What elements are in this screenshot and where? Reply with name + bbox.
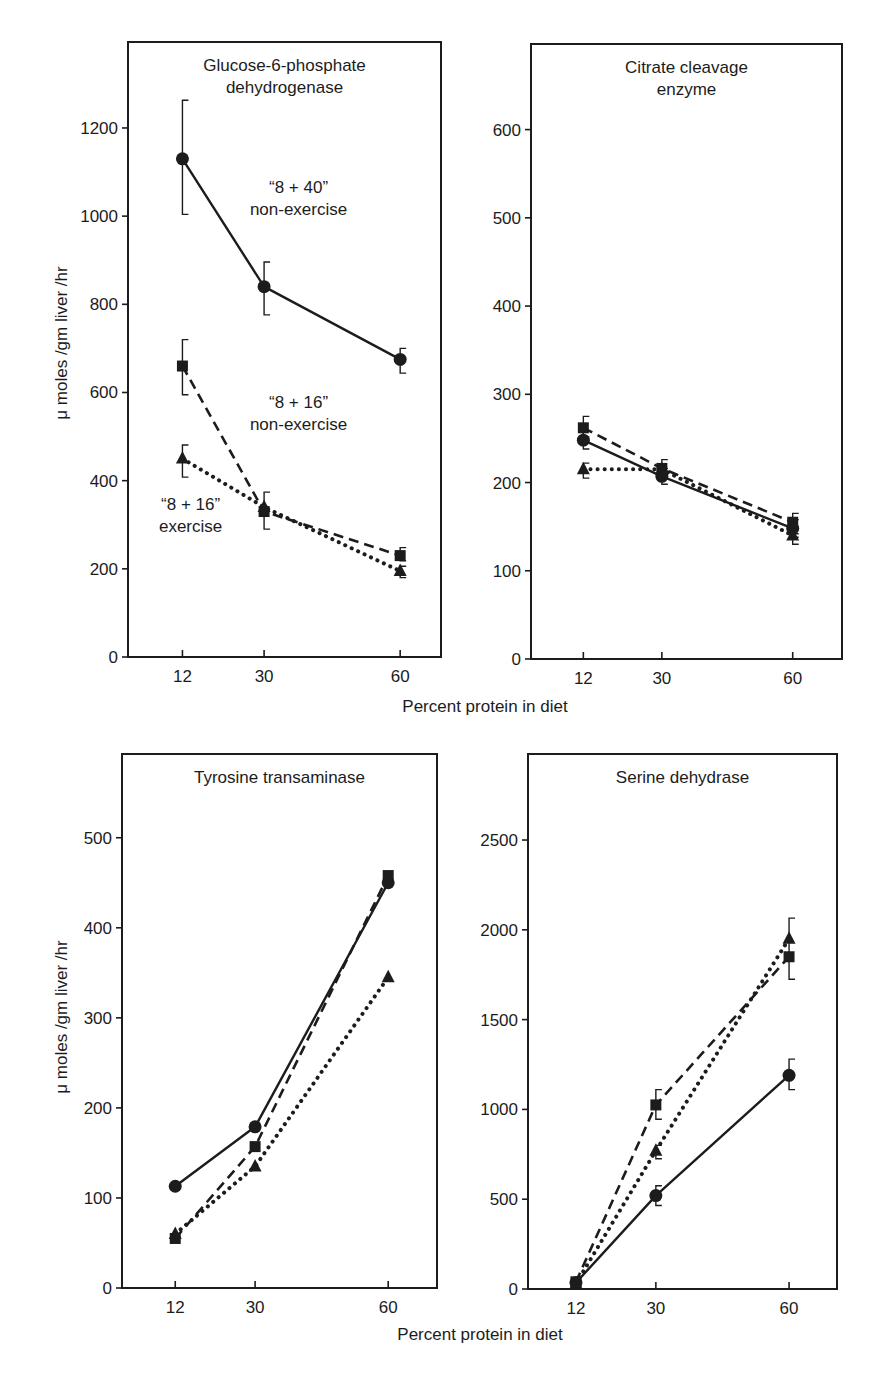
series-square-dashed [578,416,799,533]
data-point-square [250,1141,261,1152]
data-point-triangle [382,970,395,983]
y-tick-label: 100 [84,1189,112,1208]
chart-panel-serine-dehydrase: 05001000150020002500123060 Serine dehydr… [528,754,837,1289]
series-circle-solid [569,1059,795,1289]
data-point-square [650,1099,661,1110]
y-tick-label: 0 [509,1280,518,1299]
series-triangle-dotted [577,462,799,545]
data-point-triangle [258,500,271,513]
y-tick-label: 200 [84,1099,112,1118]
data-point-circle [649,1189,662,1202]
y-tick-label: 1000 [80,207,118,226]
y-tick-label: 600 [90,383,118,402]
x-tick-label: 30 [652,669,671,688]
data-point-triangle [176,451,189,464]
x-tick-label: 12 [173,667,192,686]
data-point-square [383,870,394,881]
y-tick-label: 0 [109,648,118,667]
x-tick-label: 30 [646,1299,665,1318]
series-annotation: “8 + 40” [269,178,328,197]
y-tick-label: 500 [84,829,112,848]
y-tick-label: 500 [493,209,521,228]
x-tick-label: 60 [783,669,802,688]
data-point-circle [394,353,407,366]
chart-title: Glucose-6-phosphate dehydrogenase [128,55,441,99]
x-tick-label: 30 [246,1298,265,1317]
chart-title-line-2: enzyme [657,80,717,99]
chart-title-line-1: Tyrosine transaminase [194,768,365,787]
y-tick-label: 300 [493,385,521,404]
chart-panel-glucose-6-phosphate-dehydrogenase: 020040060080010001200123060“8 + 40”non-e… [128,42,441,657]
y-tick-label: 500 [490,1190,518,1209]
data-point-triangle [783,931,796,944]
x-axis-label-top: Percent protein in diet [335,696,635,718]
y-axis-label-top: μ moles /gm liver /hr [52,203,72,483]
x-tick-label: 60 [379,1298,398,1317]
y-tick-label: 0 [512,650,521,669]
x-tick-label: 30 [255,667,274,686]
plot-area: 0100200300400500123060 [122,754,437,1288]
y-tick-label: 2000 [480,921,518,940]
series-line [583,440,792,528]
data-point-square [784,951,795,962]
chart-panel-tyrosine-transaminase: 0100200300400500123060 Tyrosine transami… [122,754,437,1288]
series-line [182,459,400,571]
series-circle-solid [169,876,395,1192]
data-point-square [787,517,798,528]
data-point-square [578,422,589,433]
y-tick-label: 1500 [480,1011,518,1030]
y-axis-label-bottom: μ moles /gm liver /hr [52,877,72,1157]
data-point-circle [249,1120,262,1133]
series-line [576,957,789,1282]
series-annotation: exercise [159,517,222,536]
plot-frame [531,44,842,659]
data-point-square [395,550,406,561]
y-tick-label: 1000 [480,1100,518,1119]
x-tick-label: 12 [566,1299,585,1318]
plot-area: 020040060080010001200123060“8 + 40”non-e… [128,42,441,657]
chart-title-line-2: dehydrogenase [226,78,343,97]
plot-area: 05001000150020002500123060 [528,754,837,1289]
x-tick-label: 12 [574,669,593,688]
chart-panel-citrate-cleavage-enzyme: 0100200300400500600123060 Citrate cleava… [531,44,842,659]
series-annotation: non-exercise [250,415,347,434]
y-tick-label: 200 [90,560,118,579]
chart-title-line-1: Citrate cleavage [625,58,748,77]
x-axis-label-bottom: Percent protein in diet [330,1324,630,1346]
series-line [175,883,388,1186]
data-point-circle [176,152,189,165]
data-point-square [177,361,188,372]
series-square-dashed [170,870,394,1244]
series-triangle-dotted [569,931,795,1288]
chart-title: Citrate cleavage enzyme [531,57,842,101]
data-point-circle [783,1069,796,1082]
series-circle-solid [176,100,407,373]
chart-title-line-1: Glucose-6-phosphate [203,56,366,75]
series-annotation: “8 + 16” [269,393,328,412]
chart-title-line-1: Serine dehydrase [616,768,749,787]
chart-title: Serine dehydrase [528,767,837,789]
series-square-dashed [570,918,795,1287]
y-tick-label: 300 [84,1009,112,1028]
plot-area: 0100200300400500600123060 [531,44,842,659]
plot-frame [128,42,441,657]
y-tick-label: 600 [493,121,521,140]
series-annotation: non-exercise [250,200,347,219]
data-point-circle [169,1180,182,1193]
x-tick-label: 60 [780,1299,799,1318]
y-tick-label: 400 [493,297,521,316]
x-tick-label: 12 [166,1298,185,1317]
series-triangle-dotted [169,970,395,1239]
y-tick-label: 400 [90,472,118,491]
y-tick-label: 2500 [480,831,518,850]
y-tick-label: 100 [493,562,521,581]
y-tick-label: 200 [493,474,521,493]
data-point-circle [258,280,271,293]
series-line [583,428,792,522]
series-annotation: “8 + 16” [161,495,220,514]
y-tick-label: 800 [90,295,118,314]
y-tick-label: 400 [84,919,112,938]
series-line [175,977,388,1234]
series-line [175,876,388,1239]
error-bar [789,918,795,979]
